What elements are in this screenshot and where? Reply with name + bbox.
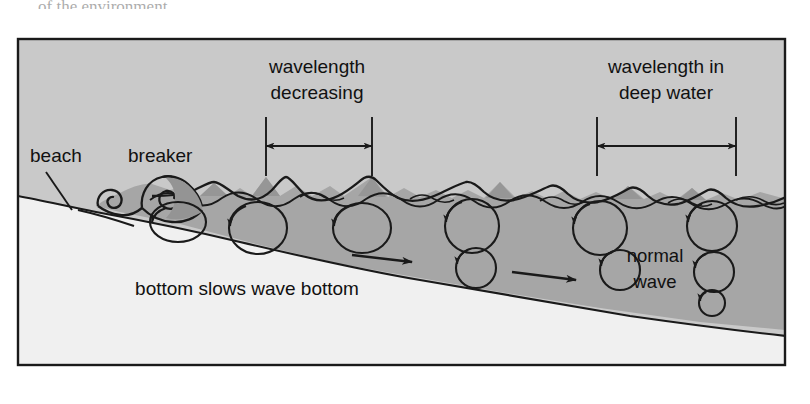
label-beach: beach [30, 145, 82, 166]
wave-diagram: of the environment [0, 0, 810, 404]
label-wavelength-decreasing-line1: wavelength [268, 56, 365, 77]
label-wavelength-deep-line1: wavelength in [607, 56, 724, 77]
label-wavelength-decreasing-line2: decreasing [271, 82, 364, 103]
label-normal-wave-line2: wave [632, 271, 676, 292]
label-wavelength-deep-line2: deep water [619, 82, 714, 103]
figure-page: of the environment [0, 0, 810, 404]
label-bottom-slows-wave-bottom: bottom slows wave bottom [135, 278, 359, 299]
illustration: beach breaker wavelength decreasing wave… [18, 39, 786, 365]
label-breaker: breaker [128, 145, 193, 166]
label-normal-wave-line1: normal [627, 245, 684, 266]
